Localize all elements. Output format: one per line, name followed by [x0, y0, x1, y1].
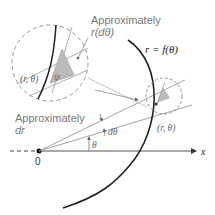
dr-pointer — [95, 90, 138, 100]
label-approx-dr-2: dr — [15, 124, 26, 136]
label-curve: r = f(θ) — [145, 43, 178, 56]
zoom-connector — [88, 78, 147, 107]
zoom-rays — [17, 27, 88, 96]
label-theta: θ — [92, 140, 97, 150]
label-x-axis: x — [200, 146, 206, 157]
polar-area-diagram: Approximately r(dθ) r = f(θ) (r, θ) ψ Ap… — [0, 0, 215, 215]
label-point-zoomed: (r, θ) — [20, 74, 38, 85]
label-approx-rdtheta-1: Approximately — [91, 14, 161, 26]
zoom-dashed-circle — [12, 25, 88, 101]
point-small — [154, 102, 157, 105]
label-origin: 0 — [35, 156, 41, 167]
label-point-small: (r, θ) — [157, 123, 175, 134]
small-shaded-triangle — [157, 87, 170, 103]
rdtheta-pointer — [78, 38, 88, 58]
polar-curve — [63, 40, 154, 208]
label-approx-dr-1: Approximately — [15, 112, 85, 124]
label-approx-rdtheta-2: r(dθ) — [91, 26, 114, 38]
label-dtheta: dθ — [108, 127, 118, 137]
